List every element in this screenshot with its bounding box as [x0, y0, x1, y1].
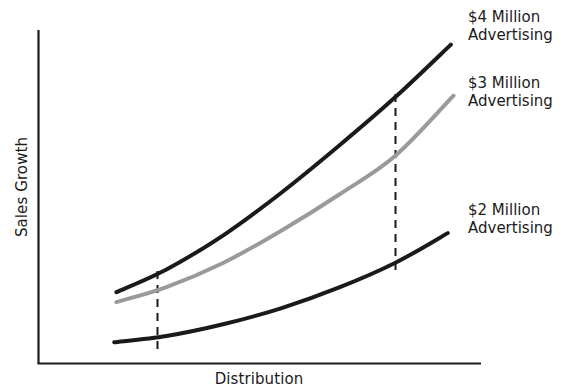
series-annotation-line1: $4 Million — [468, 8, 553, 26]
x-axis-title-text: Distribution — [215, 370, 304, 388]
series-annotation-line2: Advertising — [468, 26, 553, 44]
series-annotation-line1: $2 Million — [468, 201, 553, 219]
chart-figure: Sales Growth Distribution $4 Million Adv… — [0, 0, 569, 390]
series-annotation-line2: Advertising — [468, 92, 553, 110]
series-annotation-4-million-advertising: $4 Million Advertising — [468, 8, 553, 44]
series-annotation-2-million-advertising: $2 Million Advertising — [468, 201, 553, 237]
y-axis-title-text: Sales Growth — [13, 77, 31, 297]
series-annotation-3-million-advertising: $3 Million Advertising — [468, 74, 553, 110]
series-annotation-line2: Advertising — [468, 219, 553, 237]
series-annotation-line1: $3 Million — [468, 74, 553, 92]
chart-plot-area — [0, 0, 569, 390]
x-axis-title: Distribution — [38, 370, 480, 388]
series-line-4-million-advertising — [116, 45, 450, 292]
y-axis-title: Sales Growth — [0, 0, 36, 390]
